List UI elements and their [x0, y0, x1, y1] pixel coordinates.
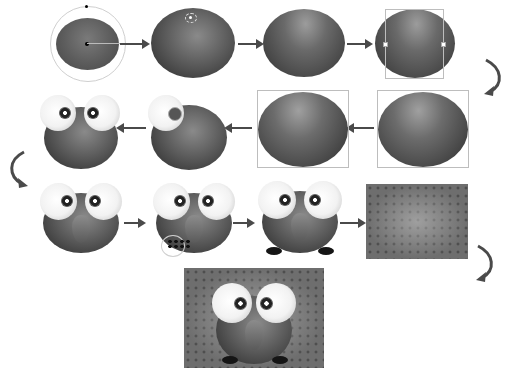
- foot-points: [167, 239, 191, 249]
- pupil-right: [260, 297, 273, 310]
- step-13-final-owl: [184, 268, 324, 368]
- pupil-right: [89, 195, 101, 207]
- arrow-right: [340, 222, 360, 224]
- step-4-selected-ellipse: [375, 9, 455, 79]
- step-8-two-eyes: [40, 95, 120, 170]
- step-12-pattern-background: [366, 184, 468, 259]
- arrow-right: [124, 222, 140, 224]
- bounding-box: [377, 90, 469, 168]
- foot-right: [318, 247, 334, 255]
- foot-left: [222, 356, 238, 364]
- pupil-left: [279, 194, 291, 206]
- pupil-left: [61, 195, 73, 207]
- arrow-left: [230, 127, 252, 129]
- pupil-right: [202, 195, 214, 207]
- step-7-first-eye: [148, 95, 228, 170]
- sphere: [263, 9, 345, 77]
- pupil-left: [174, 195, 186, 207]
- step-1-base-ellipse: [50, 6, 126, 82]
- foot-left: [266, 247, 282, 255]
- pupil-right: [87, 107, 99, 119]
- arrow-right: [238, 43, 258, 45]
- curved-arrow-down-icon: [478, 58, 508, 102]
- bounding-box: [257, 90, 349, 168]
- pupil-left: [234, 297, 247, 310]
- step-2-highlight-point: [151, 8, 235, 78]
- top-point: [85, 5, 88, 8]
- highlight-dot: [189, 16, 192, 19]
- step-3-top-highlight: [263, 9, 345, 77]
- arrow-left: [122, 127, 146, 129]
- step-5-side-shading: [377, 90, 469, 168]
- arrow-right: [347, 43, 367, 45]
- pupil-left: [59, 107, 71, 119]
- curved-arrow-down-icon: [4, 150, 34, 194]
- curved-arrow-down-icon: [470, 244, 500, 288]
- pupil-selected: [168, 107, 182, 121]
- handle: [441, 42, 446, 47]
- arrow-right: [233, 222, 249, 224]
- foot-right: [272, 356, 288, 364]
- arrow-left: [352, 127, 374, 129]
- step-10-feet: [153, 183, 235, 258]
- bounding-box: [385, 9, 444, 79]
- pupil-right: [309, 194, 321, 206]
- step-6-lit-ellipse: [257, 90, 349, 168]
- step-11-feet-shadow: [258, 181, 342, 257]
- radius-line: [87, 43, 121, 44]
- handle: [383, 42, 388, 47]
- arrow-right: [120, 43, 144, 45]
- step-9-beak: [40, 183, 122, 253]
